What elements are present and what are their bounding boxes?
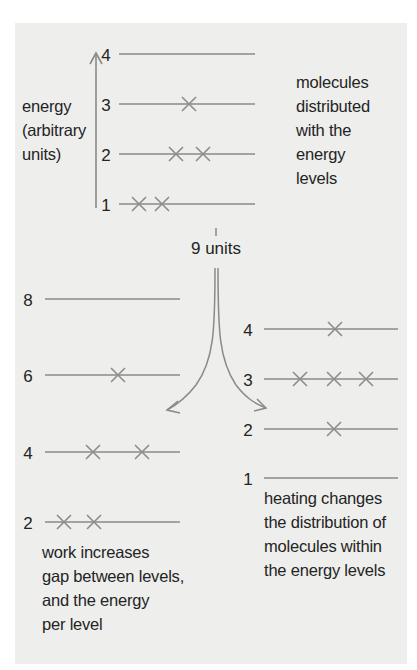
energy-level: 4: [101, 46, 255, 65]
energy-level: 4: [23, 444, 180, 463]
energy-level-label: 4: [243, 321, 252, 340]
energy-level-label: 4: [101, 46, 110, 65]
energy-level: 3: [243, 371, 398, 390]
energy-level-label: 2: [23, 514, 32, 533]
transfer-label: 9 units: [191, 239, 241, 258]
energy-level: 1: [101, 196, 255, 215]
heating-description: heating changes the distribution of mole…: [264, 486, 386, 582]
energy-level-label: 1: [243, 470, 252, 489]
energy-level-label: 4: [23, 444, 32, 463]
top-energy-levels: 4321: [101, 46, 255, 215]
energy-axis-label: energy (arbitrary units): [22, 94, 86, 166]
energy-axis-arrow: [90, 53, 102, 208]
energy-level: 4: [243, 321, 398, 340]
energy-level-label: 2: [243, 421, 252, 440]
energy-level: 2: [23, 514, 180, 533]
top-description: molecules distributed with the energy le…: [296, 70, 370, 190]
energy-level-label: 3: [101, 96, 110, 115]
work-description: work increases gap between levels, and t…: [42, 540, 184, 636]
energy-level-label: 2: [101, 146, 110, 165]
energy-level: 8: [23, 291, 180, 310]
energy-level-label: 6: [23, 367, 32, 386]
energy-level-label: 3: [243, 371, 252, 390]
energy-level: 6: [23, 367, 180, 386]
energy-level: 2: [101, 146, 255, 165]
energy-level: 3: [101, 96, 255, 115]
energy-level-label: 1: [101, 196, 110, 215]
work-energy-levels: 8642: [23, 291, 180, 533]
heating-energy-levels: 4321: [243, 321, 398, 489]
energy-level-label: 8: [23, 291, 32, 310]
energy-level: 2: [243, 421, 398, 440]
